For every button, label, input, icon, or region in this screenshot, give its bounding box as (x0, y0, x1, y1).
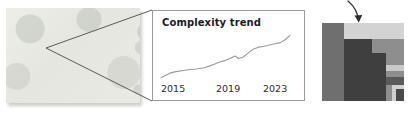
chart-title: Complexity trend (162, 17, 261, 28)
pixel-tile (386, 65, 404, 71)
chart-x-axis-labels: 2015 2019 2023 (153, 83, 306, 97)
figure-stage: Complexity trend 2015 2019 2023 (0, 0, 410, 125)
chart-plot-area (153, 29, 306, 83)
pixel-tile (344, 23, 404, 39)
pixel-tile (344, 39, 372, 101)
x-tick-label-2023: 2023 (263, 83, 287, 94)
pixelated-zoom-crop (322, 23, 404, 101)
pixel-tile (386, 77, 404, 85)
complexity-trend-chart: Complexity trend 2015 2019 2023 (152, 10, 305, 101)
x-tick-label-2015: 2015 (161, 83, 185, 94)
trend-line (161, 35, 290, 77)
pixel-tile (322, 23, 344, 101)
pixel-tile (386, 71, 404, 77)
pixel-tile (372, 53, 386, 101)
x-tick-label-2019: 2019 (216, 83, 240, 94)
pixel-tile (396, 89, 404, 101)
